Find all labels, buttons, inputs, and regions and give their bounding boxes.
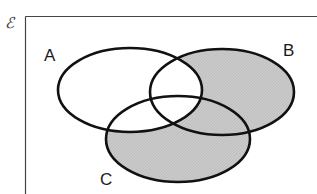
set-c-label: C: [100, 171, 112, 188]
universal-set-symbol: ℰ: [5, 16, 14, 31]
set-a-label: A: [44, 47, 55, 64]
venn-diagram: ℰ A B C: [0, 0, 317, 194]
set-b-label: B: [283, 42, 294, 59]
venn-svg: [0, 0, 317, 194]
